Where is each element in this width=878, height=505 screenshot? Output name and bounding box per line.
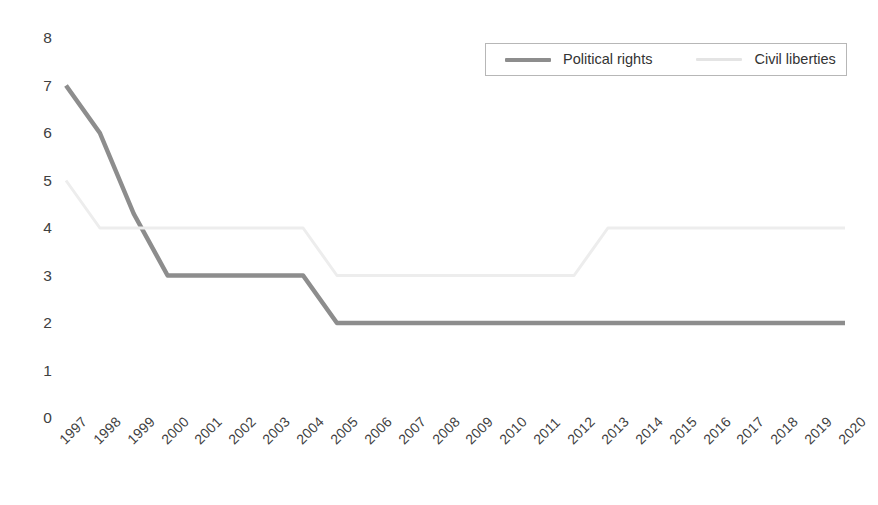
legend-label-political-rights: Political rights [563, 52, 652, 67]
legend-swatch-civil-liberties [696, 58, 742, 61]
y-tick-label: 5 [18, 173, 52, 189]
y-tick-label: 4 [18, 220, 52, 236]
y-tick-label: 7 [18, 78, 52, 94]
line-chart: 876543210 199719981999200020012002200320… [0, 0, 878, 505]
legend-label-civil-liberties: Civil liberties [754, 52, 835, 67]
y-tick-label: 1 [18, 363, 52, 379]
series-line-civil-liberties [66, 181, 845, 276]
y-tick-label: 3 [18, 268, 52, 284]
y-tick-label: 8 [18, 30, 52, 46]
legend-swatch-political-rights [505, 58, 551, 62]
x-axis: 1997199819992000200120022003200420052006… [0, 424, 878, 505]
legend-item-political-rights[interactable]: Political rights [505, 44, 652, 75]
legend-item-civil-liberties[interactable]: Civil liberties [696, 44, 835, 75]
series-line-political-rights [66, 86, 845, 324]
chart-legend: Political rights Civil liberties [485, 43, 847, 76]
y-tick-label: 6 [18, 125, 52, 141]
y-tick-label: 2 [18, 315, 52, 331]
